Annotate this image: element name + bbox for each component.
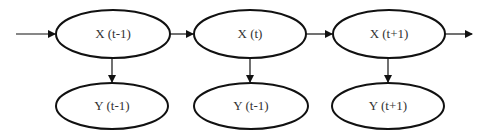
node-label-x-t-plus-1: X (t+1) (370, 26, 409, 42)
node-label-y-t-plus-1: Y (t+1) (369, 98, 407, 114)
node-label-y-t-minus-1: Y (t-1) (94, 98, 129, 114)
node-label-x-t: X (t) (238, 26, 263, 42)
node-label-y-t: Y (t-1) (233, 98, 268, 114)
bayesian-network-diagram (0, 0, 487, 137)
node-label-x-t-minus-1: X (t-1) (95, 26, 131, 42)
